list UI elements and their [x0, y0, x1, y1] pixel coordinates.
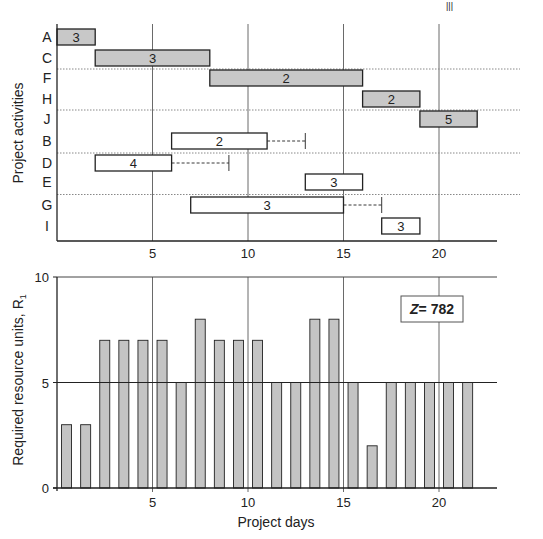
resource-bar-day-17	[367, 446, 377, 488]
resource-bar-day-8	[195, 319, 205, 488]
chart-canvas: ||| 3322524333 ACFHJBDEGI 5101520 Projec…	[0, 0, 543, 539]
task-resource-label: 3	[149, 51, 156, 66]
y-tick-0: 0	[42, 481, 49, 496]
task-bar-H: 2	[363, 91, 420, 107]
z-value-annotation: Z= 782	[401, 296, 463, 322]
task-resource-label: 2	[216, 134, 223, 149]
z-value: = 782	[419, 301, 455, 317]
x-tick-20: 20	[432, 246, 446, 261]
gantt-task-bars: 3322524333	[57, 29, 477, 234]
resource-bar-day-11	[253, 340, 263, 488]
task-bar-A: 3	[57, 29, 95, 45]
activity-label-J: J	[44, 111, 51, 127]
resource-bar-day-13	[291, 383, 301, 489]
task-resource-label: 5	[445, 112, 452, 127]
task-resource-label: 3	[397, 219, 404, 234]
resource-bar-day-20	[424, 383, 434, 489]
bar-y-tick-labels: 0510	[35, 270, 57, 496]
resource-bar-day-19	[405, 383, 415, 489]
task-bar-F: 2	[210, 70, 363, 86]
activity-label-C: C	[42, 50, 52, 66]
gantt-x-tick-labels: 5101520	[149, 246, 446, 261]
task-bar-D: 4	[95, 155, 229, 171]
y-tick-5: 5	[42, 376, 49, 391]
x-tick-10: 10	[241, 495, 255, 510]
resource-bar-day-2	[81, 425, 91, 488]
x-tick-15: 15	[336, 495, 350, 510]
activity-label-D: D	[42, 155, 52, 171]
bar-y-axis-label: Required resource units, R1	[10, 294, 28, 466]
resource-bar-day-1	[62, 425, 72, 488]
resource-bar-day-21	[444, 383, 454, 489]
task-bar-C: 3	[95, 50, 210, 66]
gantt-activity-labels: ACFHJBDEGI	[42, 29, 53, 234]
resource-bar-day-4	[119, 340, 129, 488]
activity-label-I: I	[45, 218, 49, 234]
resource-bar-day-10	[233, 340, 243, 488]
x-tick-10: 10	[241, 246, 255, 261]
x-tick-20: 20	[432, 495, 446, 510]
svg-text:Z= 782: Z= 782	[409, 301, 454, 317]
activity-label-B: B	[42, 133, 51, 149]
bar-x-axis-label: Project days	[237, 514, 314, 530]
activity-label-G: G	[42, 197, 53, 213]
corner-mark: |||	[446, 1, 453, 11]
task-bar-I: 3	[382, 218, 420, 234]
resource-bar-day-12	[272, 383, 282, 489]
resource-bar-day-15	[329, 319, 339, 488]
gantt-chart: 3322524333 ACFHJBDEGI 5101520 Project ac…	[10, 24, 520, 261]
resource-bar-day-18	[386, 383, 396, 489]
resource-bars	[62, 319, 473, 488]
activity-label-E: E	[42, 174, 51, 190]
activity-label-A: A	[42, 29, 52, 45]
task-resource-label: 3	[72, 30, 79, 45]
z-variable: Z	[409, 301, 419, 317]
task-resource-label: 3	[330, 175, 337, 190]
task-bar-E: 3	[305, 174, 362, 190]
gantt-y-axis-label: Project activities	[10, 82, 26, 183]
gantt-row-separators	[57, 69, 520, 195]
resource-bar-day-16	[348, 383, 358, 489]
activity-label-H: H	[42, 91, 52, 107]
resource-bar-day-22	[463, 383, 473, 489]
resource-bar-day-3	[100, 340, 110, 488]
task-resource-label: 4	[130, 156, 137, 171]
resource-bar-day-5	[138, 340, 148, 488]
resource-bar-day-7	[176, 383, 186, 489]
task-bar-J: 5	[420, 111, 477, 127]
task-resource-label: 2	[388, 92, 395, 107]
y-tick-10: 10	[35, 270, 49, 285]
resource-bar-chart: 5101520 0510 Project days Required resou…	[10, 270, 497, 530]
task-bar-B: 2	[172, 133, 306, 149]
x-tick-5: 5	[149, 495, 156, 510]
resource-bar-day-6	[157, 340, 167, 488]
resource-bar-day-9	[214, 340, 224, 488]
task-resource-label: 2	[283, 71, 290, 86]
task-bar-G: 3	[191, 197, 382, 213]
x-tick-5: 5	[149, 246, 156, 261]
resource-bar-day-14	[310, 319, 320, 488]
x-tick-15: 15	[336, 246, 350, 261]
bar-x-tick-labels: 5101520	[149, 495, 446, 510]
task-resource-label: 3	[263, 198, 270, 213]
activity-label-F: F	[43, 70, 52, 86]
